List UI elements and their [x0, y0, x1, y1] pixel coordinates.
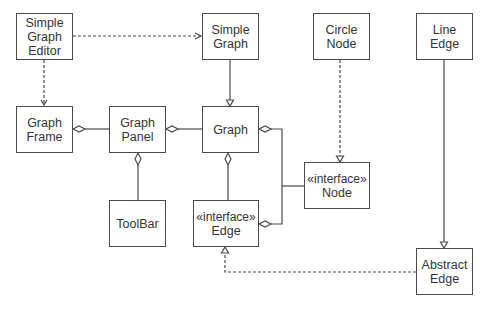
class-name-line: Panel [122, 130, 154, 144]
diamond-icon [135, 153, 141, 165]
class-graph-panel: Graph Panel [109, 106, 166, 153]
class-name-line: Simple [211, 23, 249, 37]
class-simple-graph-editor: Simple Graph Editor [16, 13, 73, 60]
diamond-icon [259, 126, 271, 132]
hollow-triangle-icon [222, 247, 229, 253]
class-name-line: Edge [430, 272, 459, 286]
class-line-edge: Line Edge [416, 13, 473, 60]
class-name-line: Node [322, 186, 352, 200]
class-name-line: Graph [27, 116, 62, 130]
class-name-line: Edge [211, 224, 240, 238]
class-toolbar: ToolBar [109, 200, 166, 247]
class-name-line: Graph [120, 116, 155, 130]
relation-graph-node [271, 129, 282, 224]
stereotype-label: «interface» [196, 210, 255, 224]
diamond-icon [166, 126, 178, 132]
class-name-line: Simple [25, 16, 63, 30]
class-name-line: Editor [28, 44, 61, 58]
class-name-line: Node [327, 37, 357, 51]
class-circle-node: Circle Node [313, 13, 370, 60]
class-name-line: Circle [326, 23, 358, 37]
class-name-line: Graph [213, 37, 248, 51]
diamond-icon [259, 221, 271, 227]
class-name-line: Frame [26, 130, 62, 144]
class-graph: Graph [202, 106, 259, 153]
class-name-line: Abstract [422, 258, 468, 272]
stereotype-label: «interface» [307, 172, 366, 186]
class-name-line: Line [433, 23, 457, 37]
interface-edge: «interface» Edge [193, 200, 259, 247]
diamond-icon [73, 126, 85, 132]
diamond-icon [225, 153, 231, 165]
interface-node: «interface» Node [304, 162, 370, 209]
class-abstract-edge: Abstract Edge [416, 248, 473, 295]
class-simple-graph: Simple Graph [202, 13, 259, 60]
relation-abstract-edge-to-edge [225, 253, 416, 272]
class-name-line: ToolBar [116, 217, 158, 231]
class-name-line: Graph [27, 30, 62, 44]
class-graph-frame: Graph Frame [16, 106, 73, 153]
class-name-line: Edge [430, 37, 459, 51]
class-name-line: Graph [213, 123, 248, 137]
